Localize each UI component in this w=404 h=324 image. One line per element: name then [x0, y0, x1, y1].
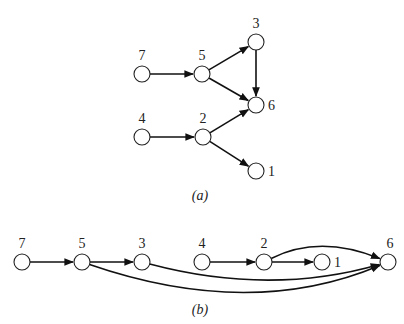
diagram_b-node-3 — [134, 254, 150, 270]
diagram_a-node-2 — [195, 129, 211, 145]
diagram_a-node-1 — [248, 163, 264, 179]
graph-a: 7536421 (a) — [134, 16, 275, 204]
diagram_a-node-label-3: 3 — [253, 16, 260, 31]
graph-b: 7534216 (b) — [14, 236, 396, 318]
diagram_a-node-label-4: 4 — [139, 111, 146, 126]
diagram_b-node-6 — [380, 254, 396, 270]
graph-b-nodes: 7534216 — [14, 236, 396, 270]
diagram_a-node-label-7: 7 — [139, 48, 146, 63]
diagram_b-node-7 — [14, 254, 30, 270]
diagram_a-node-6 — [248, 97, 264, 113]
topological-sort-figure: 7536421 (a) 7534216 (b) — [0, 0, 404, 324]
diagram_b-node-label-1: 1 — [334, 255, 341, 270]
diagram_a-node-label-1: 1 — [268, 164, 275, 179]
diagram_b-node-4 — [194, 254, 210, 270]
diagram_a-node-7 — [134, 66, 150, 82]
diagram_a-node-5 — [194, 66, 210, 82]
diagram_b-node-label-2: 2 — [261, 236, 268, 251]
diagram_b-node-label-3: 3 — [139, 236, 146, 251]
diagram_a-edge-5-to-3 — [209, 47, 248, 70]
graph-a-nodes: 7536421 — [134, 16, 275, 179]
diagram_a-edge-2-to-1 — [210, 141, 249, 166]
diagram_a-node-4 — [134, 129, 150, 145]
caption-b: (b) — [192, 302, 209, 318]
diagram_b-node-label-5: 5 — [79, 236, 86, 251]
diagram_a-edge-2-to-6 — [210, 110, 248, 133]
diagram_a-node-label-6: 6 — [268, 98, 275, 113]
diagram_b-node-1 — [314, 254, 330, 270]
diagram_b-node-label-6: 6 — [387, 236, 394, 251]
diagram_a-node-label-2: 2 — [200, 111, 207, 126]
diagram_b-node-5 — [74, 254, 90, 270]
diagram_a-node-3 — [248, 34, 264, 50]
diagram_a-node-label-5: 5 — [199, 48, 206, 63]
diagram_b-node-label-4: 4 — [199, 236, 206, 251]
diagram_a-edge-5-to-6 — [209, 78, 248, 101]
graph-a-edges — [150, 47, 256, 167]
caption-a: (a) — [192, 188, 209, 204]
diagram_b-node-2 — [256, 254, 272, 270]
diagram_b-node-label-7: 7 — [19, 236, 26, 251]
